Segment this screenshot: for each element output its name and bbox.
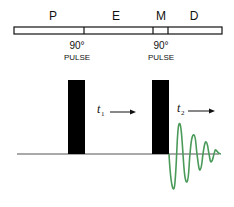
- segment-bar: [14, 27, 222, 34]
- pulse-sequence-diagram: P E M D 90° PULSE 90° PULSE t 1 t 2: [0, 0, 234, 207]
- pulse-2-angle: 90°: [153, 40, 168, 51]
- pulse-2-bar: [152, 80, 169, 154]
- segment-label-m: M: [156, 9, 166, 23]
- segment-label-p: P: [49, 9, 57, 23]
- segment-label-d: D: [190, 9, 199, 23]
- t2-arrow-head-icon: [209, 109, 215, 114]
- t2-period: t 2: [177, 101, 215, 117]
- pulse-1-label: PULSE: [64, 53, 90, 62]
- t1-arrow-head-icon: [130, 110, 136, 115]
- t2-sub: 2: [181, 109, 185, 117]
- fid-signal-wave: [169, 123, 221, 188]
- t1-period: t 1: [97, 102, 136, 118]
- segment-label-e: E: [112, 9, 120, 23]
- pulse-1-bar: [68, 80, 85, 154]
- pulse-2-label: PULSE: [148, 53, 174, 62]
- pulse-1-angle: 90°: [69, 40, 84, 51]
- t1-sub: 1: [101, 110, 105, 118]
